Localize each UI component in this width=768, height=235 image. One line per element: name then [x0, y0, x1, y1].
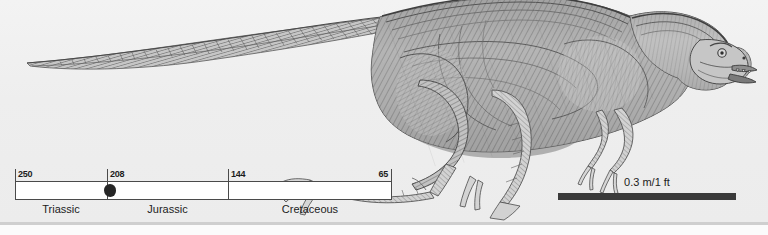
figure-panel: 250 208 144 65 Triassic Jurassic Cretace…: [0, 0, 768, 235]
scale-label: 0.3 m/1 ft: [556, 176, 738, 189]
timeline-bar: [15, 181, 392, 200]
geologic-timeline: 250 208 144 65 Triassic Jurassic Cretace…: [15, 169, 394, 219]
timeline-period-cretaceous: Cretaceous: [228, 203, 392, 216]
timeline-occurrence-marker: [104, 184, 116, 197]
timeline-label-65: 65: [357, 169, 388, 180]
timeline-label-208: 208: [110, 169, 124, 180]
timeline-tick-65: [391, 169, 392, 182]
figure-bottom-strip: [0, 225, 768, 235]
scale-indicator: 0.3 m/1 ft: [556, 176, 738, 202]
timeline-tick-250: [15, 169, 16, 182]
timeline-label-144: 144: [231, 169, 245, 180]
scale-bar: [558, 193, 736, 200]
timeline-period-jurassic: Jurassic: [107, 203, 228, 216]
timeline-label-250: 250: [18, 169, 32, 180]
dinosaur-tail: [27, 16, 394, 69]
timeline-period-triassic: Triassic: [15, 203, 107, 216]
dinosaur-foot-secondary: [460, 176, 483, 210]
timeline-divider-jurassic-cretaceous: [228, 181, 229, 200]
